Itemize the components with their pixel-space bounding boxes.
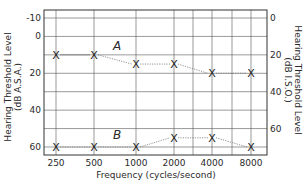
- x-tick: 2000: [163, 158, 186, 168]
- x-tick: 250: [47, 158, 64, 168]
- y-tick-right: 20: [270, 50, 282, 60]
- series-b: XXXXXX: [52, 132, 255, 154]
- y-tick-right: 0: [270, 13, 276, 23]
- x-axis-label: Frequency (cycles/second): [44, 170, 268, 180]
- y-axis-right-label-line1: Hearing Threshold Level: [293, 5, 303, 155]
- y-tick-right: 60: [270, 124, 282, 134]
- x-marker-icon: X: [208, 67, 216, 80]
- audiogram-chart: -100204060 0204060 250500100020004000800…: [0, 0, 306, 184]
- x-marker-icon: X: [208, 132, 216, 145]
- x-marker-icon: X: [247, 67, 255, 80]
- x-tick: 500: [85, 158, 102, 168]
- series-b-label: B: [113, 128, 121, 142]
- y-tick-right: 40: [270, 87, 282, 97]
- x-marker-icon: X: [90, 141, 98, 154]
- x-marker-icon: X: [90, 49, 98, 62]
- x-marker-icon: X: [52, 141, 60, 154]
- y-tick-left: 20: [30, 68, 42, 78]
- x-marker-icon: X: [170, 132, 178, 145]
- y-tick-left: 40: [30, 105, 42, 115]
- data-series: XXXXXXXXXXXX: [52, 49, 255, 154]
- x-marker-icon: X: [132, 58, 140, 71]
- y-axis-left-label-line2: (dB A.S.A.): [13, 12, 23, 162]
- y-axis-right-ticks: 0204060: [270, 13, 282, 134]
- x-marker-icon: X: [132, 141, 140, 154]
- x-marker-icon: X: [170, 58, 178, 71]
- y-axis-left-ticks: -100204060: [26, 13, 41, 152]
- y-axis-right-label-line2: (dB I.S.O.): [283, 5, 293, 155]
- series-a: XXXXXX: [52, 49, 255, 80]
- y-axis-right-label: Hearing Threshold Level (dB I.S.O.): [283, 5, 303, 155]
- y-tick-left: 60: [30, 142, 42, 152]
- plot-frame: [44, 10, 267, 155]
- x-tick: 4000: [201, 158, 224, 168]
- series-a-label: A: [112, 39, 121, 53]
- x-marker-icon: X: [247, 141, 255, 154]
- x-axis-ticks: 2505001000200040008000: [47, 158, 262, 168]
- y-axis-left-label: Hearing Threshold Level (dB A.S.A.): [3, 12, 23, 162]
- grid: [44, 10, 267, 155]
- x-tick: 8000: [240, 158, 263, 168]
- x-marker-icon: X: [52, 49, 60, 62]
- y-tick-left: -10: [26, 13, 41, 23]
- y-tick-left: 0: [35, 31, 41, 41]
- y-axis-left-label-line1: Hearing Threshold Level: [3, 12, 13, 162]
- x-tick: 1000: [125, 158, 148, 168]
